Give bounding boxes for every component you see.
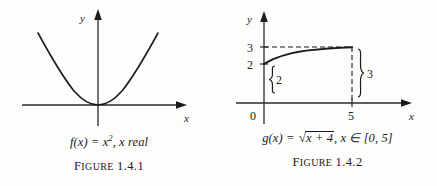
left-brace-icon [270,66,276,93]
x-axis-group [22,101,187,109]
sqrt-plot-svg: 3 2 0 5 2 3 y x [218,0,437,130]
sqrt-curve [264,47,352,64]
y-axis-arrowhead-icon [94,9,102,20]
x-axis-label-2: x [408,110,414,122]
x-axis-arrowhead-icon [176,101,187,109]
figure-1-formula-prefix: f(x) = x [70,135,108,149]
y-axis-label-2: y [246,13,252,25]
figure-1-4-2: 3 2 0 5 2 3 y x g(x) = √x + 4, x ∈ [0, 5… [218,0,437,186]
figure-2-label-f: F [292,155,299,169]
radical-group: √x + 4 [298,130,334,146]
x-axis-arrowhead-icon-2 [401,99,412,107]
y-axis-group [94,9,102,126]
y-axis-group-2 [260,11,268,124]
figure-1-plot-area: y x [0,0,218,130]
figure-1-4-1: y x f(x) = x2, x real FIGURE 1.4.1 [0,0,218,186]
x-axis-group-2 [236,99,412,107]
parabola-plot-svg: y x [0,0,218,130]
y-tick-label-3: 3 [247,41,253,55]
figure-2-label-number: 1.4.2 [336,155,363,169]
figure-2-formula-prefix: g(x) = [262,131,298,145]
y-axis-arrowhead-icon-2 [260,11,268,22]
x-tick-label-5: 5 [348,109,354,123]
right-brace-label: 3 [367,67,373,81]
figure-1-formula: f(x) = x2, x real [0,130,218,150]
textbook-figure-page: y x f(x) = x2, x real FIGURE 1.4.1 [0,0,437,186]
x-axis-label: x [183,112,189,124]
origin-label: 0 [250,109,256,123]
figure-1-label-word: IGURE [81,161,114,172]
y-tick-label-2: 2 [247,58,253,72]
figure-1-caption-wrap: f(x) = x2, x real FIGURE 1.4.1 [0,130,218,174]
figure-1-formula-suffix: , x real [113,135,148,149]
figure-2-radicand: x + 4 [305,131,334,145]
figure-2-formula-suffix: , x ∈ [0, 5] [334,131,393,145]
figure-2-formula: g(x) = √x + 4, x ∈ [0, 5] [218,130,437,146]
figure-1-label-number: 1.4.1 [117,159,144,173]
left-brace-label: 2 [276,73,282,87]
figure-2-label: FIGURE 1.4.2 [218,155,437,170]
right-brace-icon [358,49,364,97]
figure-2-caption-wrap: g(x) = √x + 4, x ∈ [0, 5] FIGURE 1.4.2 [218,130,437,170]
figure-2-plot-area: 3 2 0 5 2 3 y x [218,0,437,130]
y-axis-label: y [79,12,85,24]
figure-1-label: FIGURE 1.4.1 [0,159,218,174]
figure-2-label-word: IGURE [300,157,333,168]
